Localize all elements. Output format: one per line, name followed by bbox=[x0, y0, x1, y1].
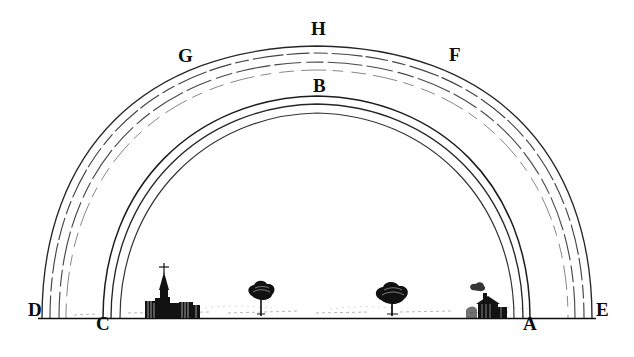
horizon-line bbox=[38, 306, 596, 318]
tree bbox=[248, 281, 274, 316]
label-A: A bbox=[523, 314, 537, 333]
primary-band-middle bbox=[111, 104, 523, 318]
diagram-canvas bbox=[0, 0, 634, 357]
label-D: D bbox=[28, 300, 42, 319]
label-H: H bbox=[311, 19, 326, 38]
horizon-haze bbox=[74, 311, 508, 315]
label-G: G bbox=[178, 46, 193, 65]
label-F: F bbox=[449, 45, 461, 64]
label-C: C bbox=[96, 314, 110, 333]
label-E: E bbox=[596, 300, 609, 319]
label-B: B bbox=[313, 76, 326, 95]
cottage-with-smoke bbox=[466, 282, 507, 318]
rainbow-diagram-figure: H G F B D C A E bbox=[0, 0, 634, 357]
tree bbox=[376, 282, 408, 316]
village-with-church bbox=[145, 263, 200, 318]
